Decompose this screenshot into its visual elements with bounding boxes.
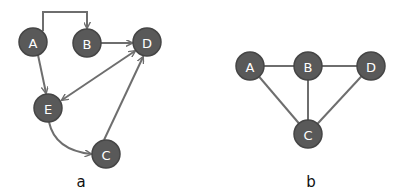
caption-b: b [306,173,316,191]
undirected-graph-b: ABDC b [236,52,385,191]
node-label: A [29,36,38,51]
node-label: D [366,60,376,75]
node-d: D [133,28,161,56]
edge-d-to-e [62,51,135,100]
node-label: E [44,102,52,117]
edge-a-to-e [38,55,46,93]
node-b: B [294,52,322,80]
nodes-a: ABDEC [19,28,161,168]
node-label: C [303,128,312,143]
node-a: A [236,52,264,80]
edge-c-to-d [104,57,143,140]
node-label: C [101,148,110,163]
node-c: C [294,120,322,148]
node-label: D [142,36,152,51]
edge-a-to-b [43,12,87,31]
nodes-b: ABDC [236,52,385,148]
node-a: A [19,28,47,56]
node-c: C [92,140,120,168]
node-e: E [34,94,62,122]
diagram-canvas: ABDEC a ABDC b [0,0,405,196]
node-label: B [304,60,313,75]
node-label: B [83,37,92,52]
caption-a: a [76,173,85,191]
node-d: D [357,52,385,80]
node-label: A [246,60,255,75]
directed-graph-a: ABDEC a [19,12,161,191]
edge-e-to-c [49,122,91,154]
node-b: B [73,29,101,57]
